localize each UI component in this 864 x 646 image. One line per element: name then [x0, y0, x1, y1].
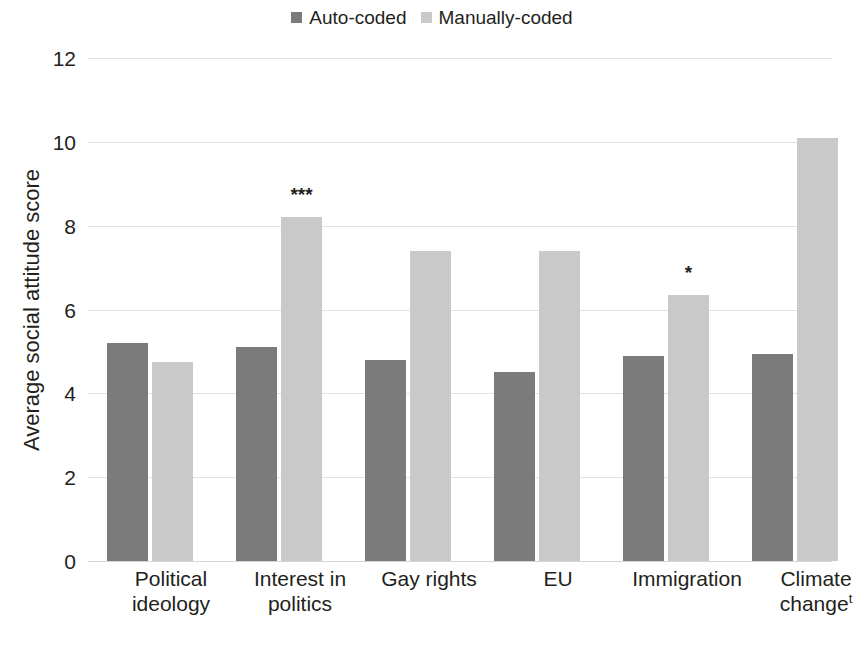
bar-auto-coded-immigration[interactable]	[623, 356, 664, 561]
bar-auto-coded-gay-rights[interactable]	[365, 360, 406, 561]
bar-chart: Auto-coded Manually-coded Average social…	[0, 0, 864, 646]
bar-manually-coded-interest-in-politics[interactable]	[281, 217, 322, 561]
bar-auto-coded-political-ideology[interactable]	[107, 343, 148, 561]
legend-swatch-manually-coded	[421, 12, 432, 23]
y-tick-label-8: 8	[16, 215, 76, 236]
bar-group-immigration: *	[623, 58, 751, 561]
bar-manually-coded-political-ideology[interactable]	[152, 362, 193, 561]
x-axis-label-immigration: Immigration	[612, 566, 762, 591]
bar-auto-coded-interest-in-politics[interactable]	[236, 347, 277, 561]
y-tick-label-2: 2	[16, 467, 76, 488]
gridline-0-baseline	[88, 561, 832, 562]
x-axis-label-interest-in-politics: Interest in politics	[225, 566, 375, 616]
x-axis-label-line1-eu: EU	[543, 567, 572, 590]
x-axis-label-gay-rights: Gay rights	[354, 566, 504, 591]
y-tick-label-10: 10	[16, 131, 76, 152]
x-axis-label-line2-text-climate-change: change	[780, 592, 849, 615]
y-tick-label-0: 0	[16, 551, 76, 572]
bar-group-political-ideology	[107, 58, 235, 561]
bar-manually-coded-immigration[interactable]	[668, 295, 709, 561]
x-axis-label-climate-change: Climate changet	[741, 566, 864, 616]
significance-marker-immigration: *	[668, 263, 709, 282]
y-tick-label-6: 6	[16, 299, 76, 320]
significance-marker-interest-in-politics: ***	[281, 185, 322, 204]
x-axis-label-line1-political-ideology: Political	[135, 567, 207, 590]
x-axis-label-line2-climate-change: changet	[741, 591, 864, 616]
plot-area: Average social attitude score 12 10 8 6 …	[88, 58, 832, 561]
x-axis-label-line1-climate-change: Climate	[780, 567, 851, 590]
x-axis-label-line2-political-ideology: ideology	[96, 591, 246, 616]
bar-manually-coded-climate-change[interactable]	[797, 138, 838, 561]
x-axis-label-line2-interest-in-politics: politics	[225, 591, 375, 616]
y-tick-label-4: 4	[16, 383, 76, 404]
bar-group-climate-change	[752, 58, 864, 561]
x-axis-label-line1-interest-in-politics: Interest in	[254, 567, 346, 590]
x-axis-label-political-ideology: Political ideology	[96, 566, 246, 616]
x-axis-label-eu: EU	[483, 566, 633, 591]
x-axis-label-line1-immigration: Immigration	[632, 567, 742, 590]
legend-label-auto-coded: Auto-coded	[309, 8, 406, 27]
bar-auto-coded-eu[interactable]	[494, 372, 535, 561]
legend-item-auto-coded: Auto-coded	[291, 8, 406, 27]
footnote-marker-climate-change: t	[849, 591, 853, 606]
legend-label-manually-coded: Manually-coded	[439, 8, 573, 27]
x-axis-label-line1-gay-rights: Gay rights	[381, 567, 477, 590]
bar-auto-coded-climate-change[interactable]	[752, 354, 793, 562]
bar-group-gay-rights	[365, 58, 493, 561]
legend-swatch-auto-coded	[291, 12, 302, 23]
legend-item-manually-coded: Manually-coded	[421, 8, 573, 27]
y-tick-label-12: 12	[16, 48, 76, 69]
bar-group-interest-in-politics: ***	[236, 58, 364, 561]
bar-group-eu	[494, 58, 622, 561]
bar-manually-coded-eu[interactable]	[539, 251, 580, 561]
bar-manually-coded-gay-rights[interactable]	[410, 251, 451, 561]
chart-legend: Auto-coded Manually-coded	[0, 8, 864, 27]
